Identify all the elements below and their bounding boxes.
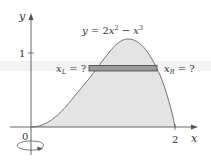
origin-label: 0 <box>22 131 28 142</box>
eq-exp2: 3 <box>139 24 143 32</box>
x-right-label: xR = ? <box>164 63 195 76</box>
y-axis-label: y <box>18 10 26 23</box>
x-axis-label: x <box>191 132 198 145</box>
x-tick-label: 2 <box>172 134 178 145</box>
eq-minus: − <box>119 25 134 36</box>
y-axis-arrow-icon <box>29 13 34 20</box>
volume-of-revolution-diagram: y x 1 2 0 y = 2x2 − x3 xL = ? xR = ? <box>0 0 211 161</box>
rotation-arrow-icon <box>17 141 43 151</box>
horizontal-strip <box>89 66 157 72</box>
x-axis-arrow-icon <box>191 125 198 130</box>
curve-equation-label: y = 2x2 − x3 <box>81 24 143 36</box>
region-under-curve <box>31 39 175 127</box>
y-tick-label: 1 <box>19 48 25 59</box>
x-left-label: xL = ? <box>56 63 86 76</box>
eq-eq: = 2 <box>88 25 109 36</box>
